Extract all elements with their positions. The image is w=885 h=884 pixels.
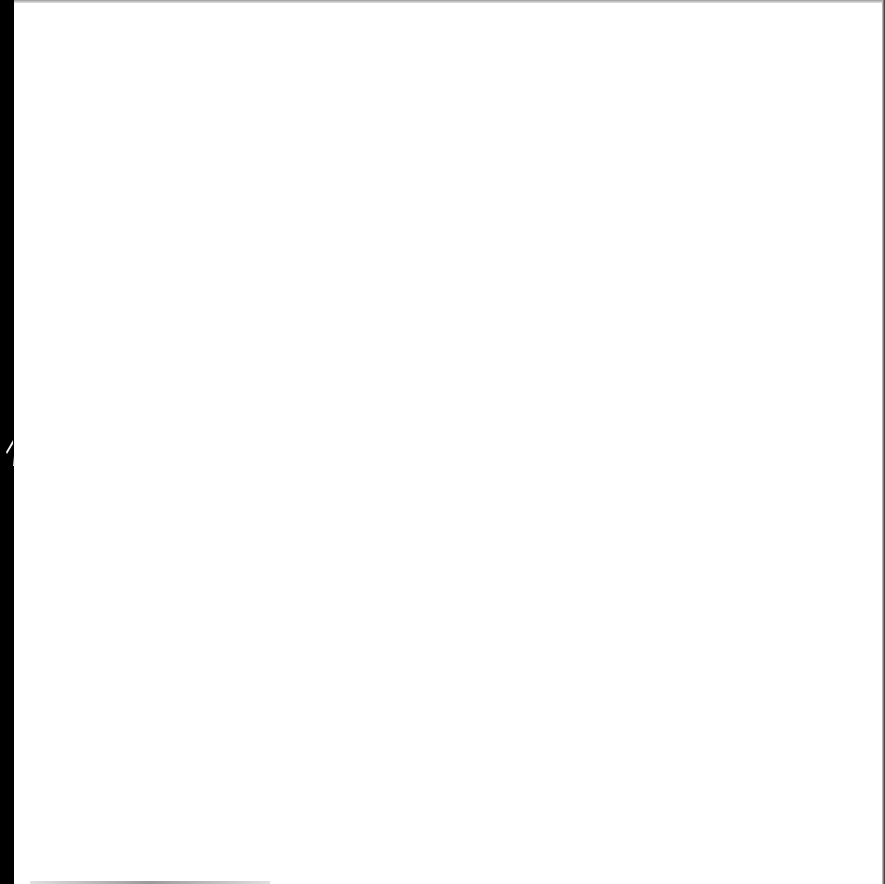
blank-page <box>14 2 882 884</box>
paper-curl-icon <box>3 438 15 468</box>
